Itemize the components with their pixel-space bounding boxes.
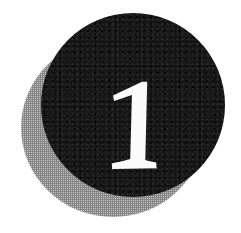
chapter-number-badge: 1 [0,0,241,233]
black-disc [41,13,225,197]
